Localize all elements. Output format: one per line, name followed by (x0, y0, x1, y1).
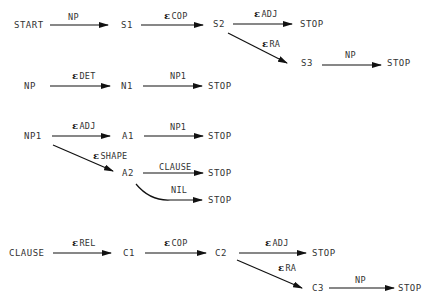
arc-label-np: NP (355, 275, 366, 285)
node-np: NP (24, 81, 36, 91)
node-stop: STOP (387, 58, 411, 68)
arc-label-text: RA (285, 263, 296, 273)
node-c2: C2 (215, 248, 227, 258)
node-s3: S3 (301, 58, 313, 68)
epsilon-symbol: ε (72, 70, 78, 81)
node-start: START (14, 20, 44, 30)
arc-label-np: NP (68, 12, 79, 22)
arc-label-eps-shape: εSHAPE (93, 150, 127, 161)
arc-label-text: COP (171, 238, 187, 248)
arc-label-eps-ra: εRA (262, 38, 280, 49)
arc-label-np: NP (345, 50, 356, 60)
epsilon-symbol: ε (262, 38, 268, 49)
arc-label-text: REL (79, 238, 95, 248)
node-s1: S1 (121, 20, 133, 30)
arc-a2-stop-nil (136, 184, 202, 200)
arc-label-eps-adj: εADJ (265, 237, 289, 248)
arc-label-text: SHAPE (100, 151, 127, 161)
node-stop: STOP (300, 19, 324, 29)
arc-label-text: RA (269, 39, 280, 49)
epsilon-symbol: ε (164, 237, 170, 248)
epsilon-symbol: ε (265, 237, 271, 248)
node-a1: A1 (122, 131, 134, 141)
arc-label-eps-rel: εREL (72, 237, 96, 248)
node-stop: STOP (208, 168, 232, 178)
node-c1: C1 (123, 248, 135, 258)
node-stop: STOP (208, 81, 232, 91)
arc-label-text: ADJ (272, 238, 288, 248)
epsilon-symbol: ε (93, 150, 99, 161)
arc-label-eps-cop: εCOP (164, 237, 188, 248)
node-a2: A2 (122, 168, 134, 178)
arc-label-eps-ra: εRA (278, 262, 296, 273)
arc-label-text: DET (79, 71, 95, 81)
arc-label-text: ADJ (261, 9, 277, 19)
arc-label-eps-adj: εADJ (254, 8, 278, 19)
arc-label-nil: NIL (171, 185, 187, 195)
node-stop: STOP (208, 131, 232, 141)
arc-label-eps-cop: εCOP (164, 10, 188, 21)
node-c3: C3 (312, 283, 324, 293)
node-clause: CLAUSE (9, 248, 45, 258)
epsilon-symbol: ε (164, 10, 170, 21)
node-stop: STOP (312, 248, 336, 258)
arc-label-eps-adj: εADJ (72, 120, 96, 131)
node-stop: STOP (398, 283, 422, 293)
arc-label-clause: CLAUSE (159, 162, 192, 172)
node-stop: STOP (208, 195, 232, 205)
arcs-layer (0, 0, 429, 304)
epsilon-symbol: ε (278, 262, 284, 273)
arc-label-text: ADJ (79, 121, 95, 131)
arc-label-np1: NP1 (170, 122, 186, 132)
epsilon-symbol: ε (254, 8, 260, 19)
arc-label-np1: NP1 (170, 71, 186, 81)
node-s2: S2 (213, 19, 225, 29)
node-np1: NP1 (24, 131, 42, 141)
epsilon-symbol: ε (72, 120, 78, 131)
epsilon-symbol: ε (72, 237, 78, 248)
arc-label-text: COP (171, 11, 187, 21)
arc-label-eps-det: εDET (72, 70, 96, 81)
node-n1: N1 (121, 81, 133, 91)
